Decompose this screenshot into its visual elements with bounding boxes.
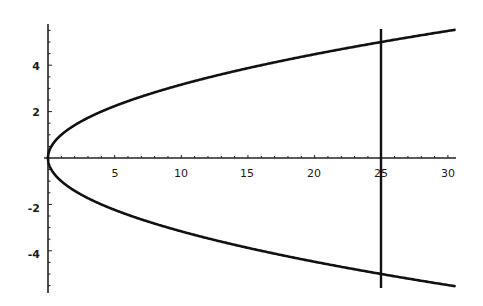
y-tick-label-m4: -4 xyxy=(28,248,41,261)
y-tick-label-m2: -2 xyxy=(28,202,40,215)
y-tick-labels: 4 2 -2 -4 xyxy=(28,60,41,261)
y-tick-label-4: 4 xyxy=(32,60,40,73)
parabola-plot: 5 10 15 20 25 30 4 2 -2 -4 xyxy=(0,0,483,306)
x-tick-label-10: 10 xyxy=(174,167,188,180)
x-tick-label-15: 15 xyxy=(240,167,254,180)
x-tick-label-5: 5 xyxy=(112,167,119,180)
y-tick-label-2: 2 xyxy=(32,106,40,119)
x-tick-labels: 5 10 15 20 25 30 xyxy=(112,167,456,180)
upper-parabola-branch xyxy=(48,30,455,158)
x-tick-label-20: 20 xyxy=(307,167,321,180)
x-tick-label-30: 30 xyxy=(441,167,455,180)
